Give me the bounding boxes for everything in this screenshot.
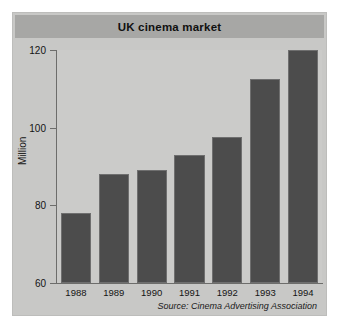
x-tick-label: 1992 — [217, 287, 238, 298]
x-tick-label: 1990 — [141, 287, 162, 298]
y-tick-mark — [50, 283, 57, 284]
bar — [288, 50, 318, 283]
bar — [99, 174, 129, 283]
bar — [61, 213, 91, 283]
chart-title: UK cinema market — [118, 21, 222, 33]
y-tick-mark — [50, 205, 57, 206]
x-tick-label: 1993 — [255, 287, 276, 298]
chart-figure: UK cinema market Million 6080100120 1988… — [13, 13, 326, 315]
y-tick-mark — [50, 50, 57, 51]
y-tick-label: 60 — [12, 278, 46, 289]
bar — [137, 170, 167, 283]
bar — [212, 137, 242, 283]
x-tick-label: 1994 — [292, 287, 313, 298]
y-axis-title: Million — [17, 137, 28, 165]
y-axis-line — [56, 50, 57, 284]
y-tick-label: 100 — [12, 122, 46, 133]
bar — [174, 155, 204, 283]
x-axis-line — [56, 283, 323, 284]
y-tick-label: 120 — [12, 45, 46, 56]
y-tick-mark — [50, 128, 57, 129]
x-tick-label: 1989 — [103, 287, 124, 298]
y-tick-label: 80 — [12, 200, 46, 211]
x-tick-label: 1988 — [65, 287, 86, 298]
bar — [250, 79, 280, 283]
x-tick-label: 1991 — [179, 287, 200, 298]
source-note: Source: Cinema Advertising Association — [158, 301, 317, 311]
chart-title-band: UK cinema market — [15, 15, 324, 38]
